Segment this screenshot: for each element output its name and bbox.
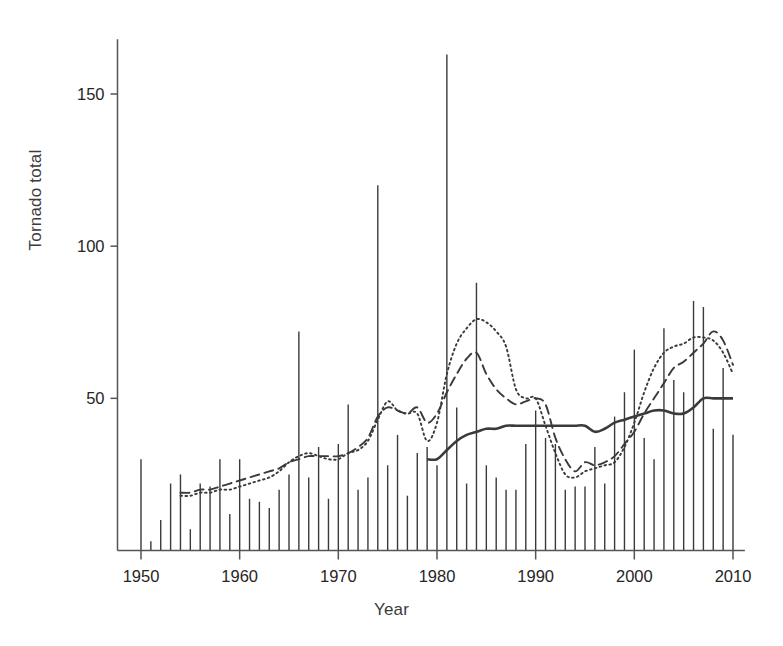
svg-text:150: 150 xyxy=(77,85,105,103)
solid-trend-line xyxy=(427,398,733,460)
svg-text:100: 100 xyxy=(77,237,105,255)
svg-text:1970: 1970 xyxy=(320,567,357,585)
y-axis-title-text: Tornado total xyxy=(26,75,46,325)
svg-text:50: 50 xyxy=(86,389,104,407)
x-axis: 1950196019701980199020002010 xyxy=(118,551,752,585)
tornado-total-chart: 50100150 1950196019701980199020002010 To… xyxy=(0,0,783,646)
svg-text:1950: 1950 xyxy=(123,567,160,585)
bar-series xyxy=(141,54,733,550)
svg-text:1980: 1980 xyxy=(419,567,456,585)
y-axis-title: Tornado total xyxy=(26,0,46,200)
svg-text:1960: 1960 xyxy=(221,567,258,585)
x-axis-title: Year xyxy=(0,600,783,620)
svg-text:1990: 1990 xyxy=(517,567,554,585)
svg-text:2000: 2000 xyxy=(616,567,653,585)
y-axis: 50100150 xyxy=(77,39,118,550)
svg-text:2010: 2010 xyxy=(715,567,752,585)
chart-plot-area: 50100150 1950196019701980199020002010 xyxy=(0,0,783,646)
